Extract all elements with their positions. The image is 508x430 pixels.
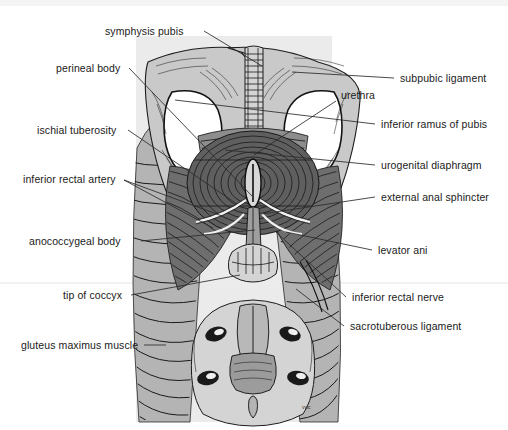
label-tip-of-coccyx: tip of coccyx — [63, 289, 122, 301]
label-external-anal-sphincter: external anal sphincter — [381, 191, 489, 203]
label-inferior-ramus-of-pubis: inferior ramus of pubis — [381, 118, 487, 130]
label-ischial-tuberosity: ischial tuberosity — [37, 124, 116, 136]
artist-signature: vwc — [302, 404, 311, 410]
label-subpubic-ligament: subpubic ligament — [400, 72, 486, 84]
label-urethra: urethra — [341, 89, 375, 101]
label-inferior-rectal-nerve: inferior rectal nerve — [352, 291, 444, 303]
label-urogenital-diaphragm: urogenital diaphragm — [381, 159, 482, 171]
label-symphysis-pubis: symphysis pubis — [105, 25, 184, 37]
label-sacrotuberous-ligament: sacrotuberous ligament — [350, 320, 461, 332]
coccyx-shape — [228, 244, 277, 282]
label-inferior-rectal-artery: inferior rectal artery — [23, 173, 116, 185]
label-gluteus-maximus-muscle: gluteus maximus muscle — [21, 339, 138, 351]
label-anococcygeal-body: anococcygeal body — [29, 235, 121, 247]
label-perineal-body: perineal body — [56, 62, 120, 74]
sacrum-shape — [191, 300, 314, 426]
label-levator-ani: levator ani — [378, 244, 428, 256]
